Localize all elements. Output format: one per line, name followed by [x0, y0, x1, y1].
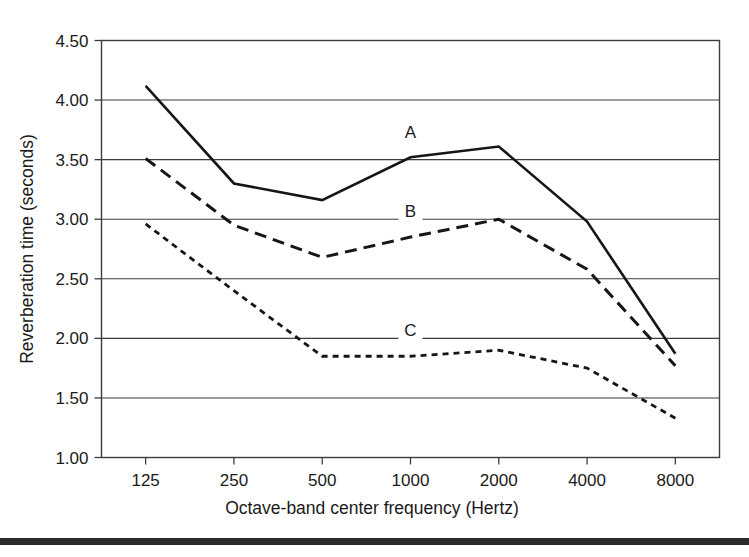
series-label-B: B — [405, 202, 416, 221]
x-axis-tick-label: 250 — [220, 471, 248, 490]
y-axis-tick-label: 1.00 — [55, 449, 88, 468]
y-axis-tick-label: 2.50 — [55, 270, 88, 289]
series-label-A: A — [405, 123, 417, 142]
y-axis-title: Reverberation time (seconds) — [17, 134, 37, 364]
x-axis-tick-label: 125 — [131, 471, 159, 490]
y-axis-tick-label: 4.00 — [55, 91, 88, 110]
bottom-divider-rule — [0, 538, 749, 545]
y-axis-tick-label: 3.00 — [55, 210, 88, 229]
x-axis-tick-label: 500 — [308, 471, 336, 490]
x-axis-tick-label: 1000 — [392, 471, 430, 490]
y-axis-tick-label: 3.50 — [55, 151, 88, 170]
y-axis-tick-label: 2.00 — [55, 329, 88, 348]
x-axis-title: Octave-band center frequency (Hertz) — [225, 498, 519, 518]
reverberation-time-line-chart: ABC 4.504.003.503.002.502.001.501.00 125… — [0, 0, 749, 557]
x-axis-tick-label: 2000 — [480, 471, 518, 490]
y-axis-tick-label: 4.50 — [55, 32, 88, 51]
x-axis-tick-label: 4000 — [568, 471, 606, 490]
x-axis-tick-label: 8000 — [656, 471, 694, 490]
chart-figure: ABC 4.504.003.503.002.502.001.501.00 125… — [0, 0, 749, 557]
series-label-C: C — [404, 321, 416, 340]
y-axis-tick-label: 1.50 — [55, 389, 88, 408]
